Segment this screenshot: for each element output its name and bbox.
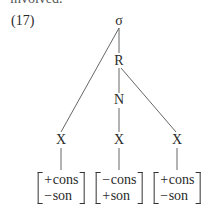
feature-row: −cons (102, 172, 137, 188)
feature-row: +son (102, 188, 137, 204)
node-syllable: σ (115, 14, 123, 28)
right-bracket (79, 172, 84, 204)
right-bracket (195, 172, 200, 204)
branch-r-x3 (121, 68, 176, 132)
feature-row: +cons (44, 172, 79, 188)
node-x-coda: X (172, 133, 182, 147)
node-x-nucleus: X (114, 133, 124, 147)
node-x-onset: X (56, 133, 66, 147)
feature-row: +cons (160, 172, 195, 188)
feature-row: −son (44, 188, 79, 204)
feature-row: −son (160, 188, 195, 204)
node-nucleus: N (114, 93, 124, 107)
feature-matrix-coda: +cons −son (154, 172, 201, 204)
feature-matrix-onset: +cons −son (38, 172, 85, 204)
branch-sigma-x1 (61, 28, 119, 132)
node-rhyme: R (114, 54, 123, 68)
feature-matrix-nucleus: −cons +son (96, 172, 143, 204)
right-bracket (137, 172, 142, 204)
